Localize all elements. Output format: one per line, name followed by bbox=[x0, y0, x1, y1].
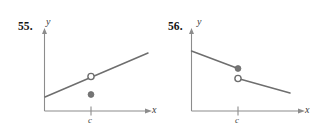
open-point-at-c bbox=[235, 75, 241, 81]
figure-56-plot bbox=[159, 0, 318, 136]
figure-panel-55: 55. y x c bbox=[0, 0, 159, 136]
graph-line-left-branch bbox=[192, 51, 239, 69]
open-point-at-c bbox=[88, 73, 94, 79]
graph-line-increasing bbox=[45, 53, 148, 97]
y-axis-arrowhead bbox=[42, 28, 47, 34]
figure-panel-56: 56. y x c bbox=[159, 0, 318, 136]
y-axis-arrowhead bbox=[189, 28, 194, 34]
closed-point-at-c bbox=[88, 92, 94, 98]
figure-sheet: 55. y x c 56. y x c bbox=[0, 0, 318, 136]
closed-point-at-c bbox=[235, 66, 241, 72]
graph-line-right-branch bbox=[238, 79, 290, 94]
x-axis-arrowhead bbox=[145, 108, 152, 113]
figure-55-plot bbox=[0, 0, 159, 136]
x-axis-arrowhead bbox=[298, 108, 305, 113]
